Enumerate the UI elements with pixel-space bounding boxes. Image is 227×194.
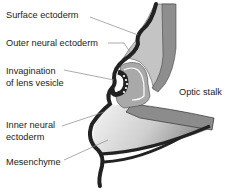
label-invagination-line2: of lens vesicle [6,78,64,89]
label-invagination-line1: Invagination [6,66,56,77]
label-outer-neural-ectoderm: Outer neural ectoderm [6,38,98,49]
label-optic-stalk: Optic stalk [179,87,222,98]
label-inner-neural-line2: ectoderm [6,132,44,143]
lens-region [116,62,150,108]
label-mesenchyme: Mesenchyme [6,157,61,168]
label-surface-ectoderm: Surface ectoderm [6,10,79,21]
label-inner-neural-line1: Inner neural [6,120,55,131]
